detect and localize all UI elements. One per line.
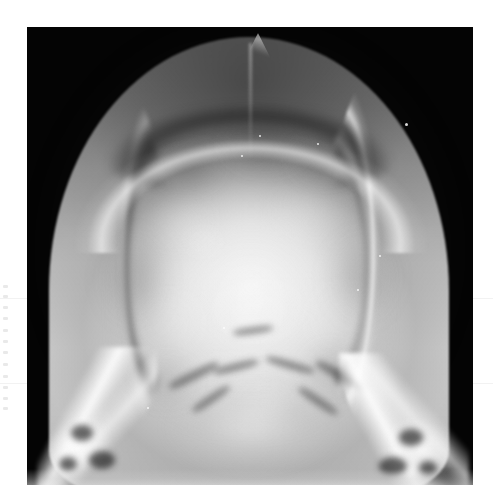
margin-mark — [3, 351, 8, 354]
margin-mark — [3, 407, 8, 410]
margin-mark — [3, 363, 8, 366]
skull — [27, 27, 473, 485]
margin-mark — [3, 340, 8, 343]
vault-bright-core — [115, 147, 387, 447]
margin-mark — [3, 397, 8, 400]
emulsion-speck — [405, 123, 408, 126]
margin-mark — [3, 285, 8, 288]
margin-mark — [3, 386, 8, 389]
skull-radiograph — [27, 27, 473, 485]
scanned-page — [0, 0, 493, 500]
margin-mark — [3, 306, 8, 309]
margin-mark — [3, 329, 8, 332]
margin-mark — [3, 295, 8, 298]
margin-mark — [3, 375, 8, 378]
margin-mark — [3, 317, 8, 320]
left-margin-bleed-through — [2, 285, 14, 410]
